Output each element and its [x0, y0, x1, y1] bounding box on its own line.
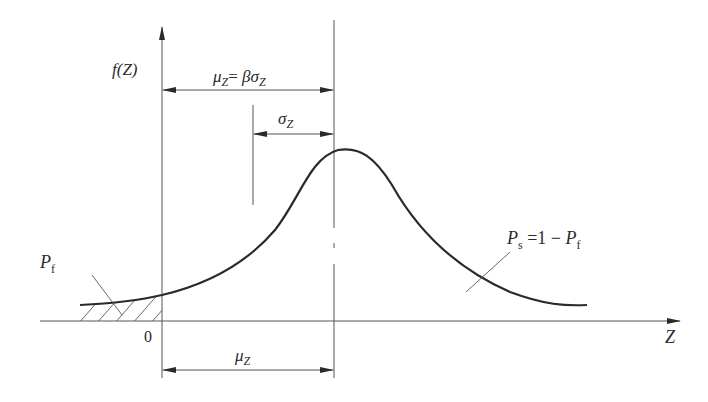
x-axis-label: Z [665, 327, 676, 347]
origin-label: 0 [144, 328, 152, 345]
failure-probability-label: Pf [39, 252, 55, 276]
mean-label: μZ [234, 346, 251, 368]
failure-region-hatch [78, 292, 178, 324]
reliability-diagram: f(Z) μZ= βσZ σZ μZ Pf Ps =1 − Pf 0 Z [0, 0, 708, 402]
pf-leader [92, 275, 122, 315]
y-axis-label: f(Z) [112, 60, 138, 79]
survival-probability-label: Ps =1 − Pf [506, 228, 580, 252]
diagram-svg: f(Z) μZ= βσZ σZ μZ Pf Ps =1 − Pf 0 Z [0, 0, 708, 402]
sigma-label: σZ [278, 109, 293, 131]
beta-sigma-label: μZ= βσZ [212, 67, 266, 89]
